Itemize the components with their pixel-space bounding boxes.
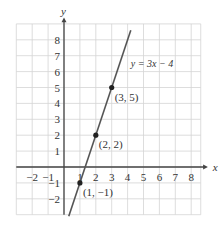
- data-point: [93, 133, 98, 138]
- data-point: [77, 180, 82, 185]
- x-axis-arrow-icon: [203, 165, 208, 170]
- point-label: (3, 5): [115, 91, 139, 104]
- y-tick-label: −2: [48, 193, 60, 205]
- y-axis-arrow-icon: [62, 18, 67, 23]
- y-tick-label: 6: [55, 66, 61, 78]
- point-label: (1, −1): [83, 186, 113, 199]
- x-tick-label: 8: [188, 171, 194, 183]
- data-point: [109, 85, 114, 90]
- y-tick-label: 8: [55, 34, 61, 46]
- x-tick-label: 5: [141, 171, 147, 183]
- x-tick-label: 7: [173, 171, 179, 183]
- y-tick-label: 3: [55, 113, 61, 125]
- y-tick-label: 4: [55, 97, 61, 109]
- x-tick-label: −2: [26, 171, 38, 183]
- x-axis-label: x: [212, 161, 218, 173]
- y-tick-label: 5: [55, 82, 61, 94]
- y-tick-label: −1: [48, 177, 60, 189]
- equation-label: y = 3x − 4: [130, 58, 173, 69]
- point-label: (2, 2): [99, 138, 123, 151]
- x-tick-label: 6: [157, 171, 163, 183]
- x-tick-label: 3: [109, 171, 115, 183]
- coordinate-plane-chart: xy −2−112345678−2−112345678 y = 3x − 4 (…: [0, 0, 223, 232]
- y-tick-label: 1: [55, 145, 61, 157]
- y-tick-label: 2: [55, 129, 61, 141]
- y-axis-label: y: [60, 5, 66, 17]
- y-tick-label: 7: [55, 50, 61, 62]
- x-tick-label: 2: [93, 171, 99, 183]
- x-tick-label: 4: [125, 171, 131, 183]
